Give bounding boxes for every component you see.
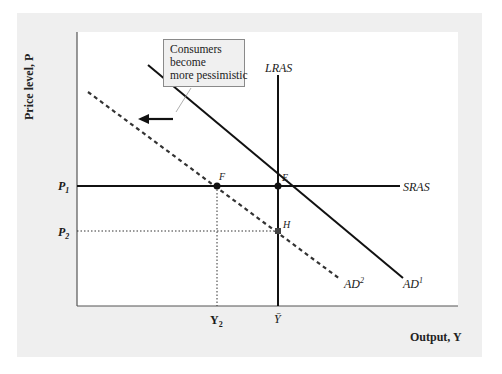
point-f-label: F (219, 172, 225, 182)
ybar-tick-label: Ȳ (274, 313, 281, 325)
ad1-label: AD1 (403, 277, 423, 290)
ad1-line (148, 65, 403, 278)
p1-tick-label: P1 (58, 180, 69, 195)
p2-tick-label: P2 (58, 226, 69, 241)
callout-line-2: become (170, 56, 244, 69)
x-axis-label: Output, Y (410, 330, 462, 345)
ad2-label: AD2 (344, 277, 364, 290)
callout-line-3: more pessimistic (170, 69, 244, 82)
lras-label: LRAS (265, 62, 292, 74)
point-e-label: E (282, 173, 288, 183)
annotation-callout: Consumers become more pessimistic (163, 39, 245, 87)
shift-arrow-icon (138, 114, 149, 124)
y2-tick-label: Y2 (210, 314, 223, 329)
y-axis-label: Price level, P (22, 54, 37, 120)
callout-line-1: Consumers (170, 43, 244, 56)
point-e (275, 183, 282, 190)
point-h-label: H (283, 220, 290, 230)
point-f (214, 183, 221, 190)
point-h (275, 228, 281, 234)
sras-label: SRAS (403, 181, 430, 193)
